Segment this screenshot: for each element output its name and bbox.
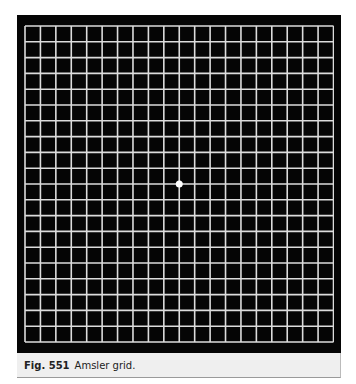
amsler-grid [24,25,334,343]
figure-caption: Fig. 551Amsler grid. [17,353,341,378]
figure-number: Fig. 551 [24,360,70,371]
grid-lines [24,25,334,343]
fixation-dot [176,181,183,188]
caption-text: Amsler grid. [75,360,136,371]
